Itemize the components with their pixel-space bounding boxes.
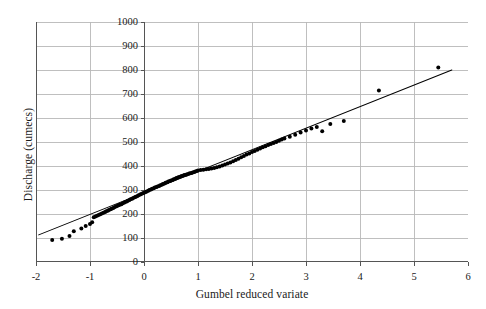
x-tick-mark	[414, 262, 415, 266]
y-tick-label: 1000	[104, 15, 138, 29]
y-tick-mark	[141, 94, 144, 95]
y-tick-label: 800	[104, 63, 138, 77]
y-tick-mark	[141, 46, 144, 47]
x-tick-mark	[198, 262, 199, 266]
y-tick-label: 200	[104, 207, 138, 221]
axis-frame	[36, 22, 468, 262]
y-tick-mark	[141, 214, 144, 215]
plot-area	[36, 22, 468, 262]
x-tick-label: -2	[22, 270, 50, 284]
y-tick-label: 0	[104, 255, 138, 269]
y-tick-label: 700	[104, 87, 138, 101]
x-tick-mark	[306, 262, 307, 266]
x-tick-label: 0	[130, 270, 158, 284]
x-tick-mark	[468, 262, 469, 266]
y-tick-mark	[141, 238, 144, 239]
x-tick-label: 6	[454, 270, 482, 284]
y-tick-mark	[141, 22, 144, 23]
y-tick-label: 400	[104, 159, 138, 173]
y-tick-mark	[141, 118, 144, 119]
x-tick-label: 3	[292, 270, 320, 284]
x-tick-label: 1	[184, 270, 212, 284]
y-tick-label: 900	[104, 39, 138, 53]
x-tick-label: 5	[400, 270, 428, 284]
x-axis-title: Gumbel reduced variate	[36, 288, 468, 300]
y-tick-label: 300	[104, 183, 138, 197]
x-tick-mark	[144, 262, 145, 266]
y-tick-mark	[141, 70, 144, 71]
horizontal-gridlines	[36, 23, 468, 263]
vertical-gridlines	[37, 22, 469, 262]
y-axis-title: Discharge (cumecs)	[18, 0, 38, 309]
y-tick-mark	[141, 190, 144, 191]
x-tick-mark	[252, 262, 253, 266]
y-tick-label: 500	[104, 135, 138, 149]
x-tick-mark	[90, 262, 91, 266]
x-tick-label: 2	[238, 270, 266, 284]
y-tick-label: 100	[104, 231, 138, 245]
gumbel-plot-figure: Discharge (cumecs) Gumbel reduced variat…	[0, 0, 486, 309]
x-tick-mark	[36, 262, 37, 266]
x-tick-mark	[360, 262, 361, 266]
y-tick-mark	[141, 142, 144, 143]
y-tick-mark	[141, 166, 144, 167]
chart-canvas	[36, 22, 468, 262]
x-tick-label: -1	[76, 270, 104, 284]
y-tick-label: 600	[104, 111, 138, 125]
x-tick-label: 4	[346, 270, 374, 284]
